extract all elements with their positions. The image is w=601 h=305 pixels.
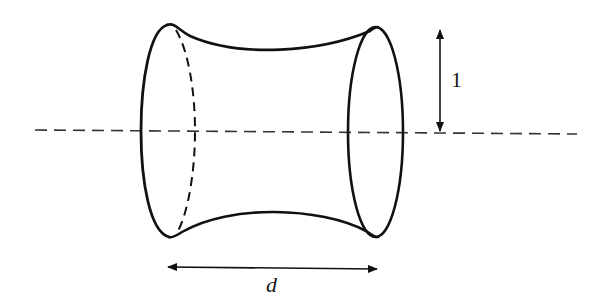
right-ring xyxy=(348,27,403,237)
surface-profile-top xyxy=(167,24,378,50)
separation-label: d xyxy=(266,272,278,297)
catenoid-diagram: 1 d xyxy=(0,0,601,305)
separation-arrow xyxy=(168,267,377,269)
axis-of-rotation xyxy=(35,130,577,134)
radius-label: 1 xyxy=(451,67,462,92)
surface-profile-bottom xyxy=(169,212,378,237)
